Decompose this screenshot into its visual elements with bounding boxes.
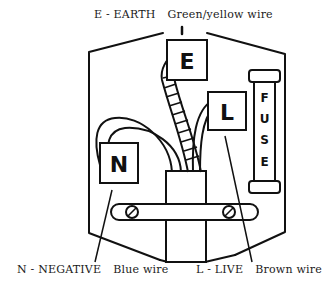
fuse-letter-s: S bbox=[260, 133, 269, 147]
live-wire-label: Brown wire bbox=[255, 263, 322, 276]
live-code: L - LIVE bbox=[196, 263, 243, 276]
live-terminal-letter: L bbox=[220, 100, 234, 125]
live-leader bbox=[225, 136, 252, 262]
fuse-letter-f: F bbox=[260, 91, 268, 105]
earth-terminal-letter: E bbox=[179, 49, 194, 74]
live-label: L - LIVEBrown wire bbox=[196, 263, 322, 276]
fuse bbox=[249, 70, 280, 193]
negative-code: N - NEGATIVE bbox=[17, 263, 101, 276]
negative-wire: Blue wire bbox=[113, 263, 168, 276]
plug-wiring-diagram: E L N F U S E bbox=[0, 0, 335, 288]
negative-label: N - NEGATIVEBlue wire bbox=[17, 263, 168, 276]
neutral-terminal-letter: N bbox=[110, 152, 128, 177]
neutral-leader bbox=[95, 190, 112, 262]
fuse-letter-u: U bbox=[260, 112, 270, 126]
fuse-letter-e: E bbox=[260, 155, 268, 169]
